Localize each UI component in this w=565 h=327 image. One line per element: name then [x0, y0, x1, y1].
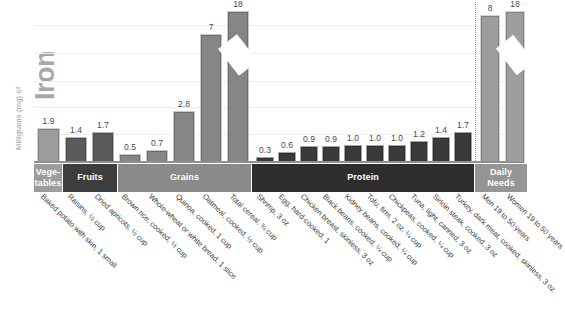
bar-value-label-4: 0.7: [140, 138, 174, 148]
bar-inner-0: [38, 129, 59, 163]
bar-inner-7: [228, 12, 248, 163]
band-label-line: Protein: [347, 173, 379, 182]
x-axis-tick-labels: Baked potato with skin, 1 smallRaisins, …: [0, 192, 507, 327]
band-label-line: tables: [35, 178, 62, 188]
gridline-1: [34, 107, 507, 108]
bar-17: [454, 132, 472, 163]
bar-inner-15: [411, 142, 427, 163]
bar-0: [37, 128, 60, 163]
bar-inner-18: [481, 16, 499, 163]
band-label-line: Fruits: [77, 173, 103, 182]
bar-inner-19: [506, 12, 524, 163]
bar-value-label-6: 7: [194, 22, 228, 32]
y-axis-title-units: Milligrams (mg) of: [14, 87, 23, 150]
band-label-line: Needs: [487, 178, 515, 188]
bar-inner-5: [174, 112, 194, 163]
bar-inner-6: [201, 35, 221, 163]
bar-inner-2: [93, 133, 113, 163]
bar-1: [65, 137, 87, 163]
bar-value-label-2: 1.7: [86, 120, 120, 130]
bar-18: [480, 15, 500, 163]
y-axis-title: Milligrams (mg) of Iron: [0, 0, 34, 170]
bar-value-label-17: 1.7: [448, 120, 478, 130]
food-group-bands: Vege-tablesFruitsGrainsProteinDailyNeeds: [34, 164, 507, 192]
plot-area: 1.91.41.70.50.72.87180.30.60.90.91.01.01…: [34, 2, 507, 163]
bar-15: [410, 141, 428, 163]
gridline-3: [34, 53, 507, 54]
band-label-line: Daily: [490, 167, 512, 177]
bar-7: [227, 11, 249, 163]
daily-needs-divider: [475, 2, 476, 163]
bar-value-label-5: 2.8: [167, 99, 201, 109]
food-group-band-veg: Vege-tables: [34, 164, 62, 192]
band-label-line: Vege-: [36, 167, 61, 177]
bar-value-label-7: 18: [221, 0, 255, 9]
bar-value-label-19: 18: [499, 0, 531, 9]
bar-19: [505, 11, 525, 163]
food-group-band-fruit: Fruits: [63, 164, 117, 192]
gridline-4: [34, 25, 507, 26]
bar-inner-17: [455, 133, 471, 163]
food-group-band-prot: Protein: [252, 164, 474, 192]
bar-16: [432, 137, 450, 163]
bar-6: [200, 34, 222, 163]
x-axis-baseline: [34, 161, 507, 163]
bar-inner-1: [66, 138, 86, 163]
bar-inner-16: [433, 138, 449, 163]
band-label-line: Grains: [170, 173, 199, 182]
bar-2: [92, 132, 114, 163]
food-group-band-grain: Grains: [118, 164, 251, 192]
food-group-band-daily: DailyNeeds: [475, 164, 527, 192]
bar-5: [173, 111, 195, 163]
gridline-2: [34, 81, 507, 82]
x-tick-label-7: Total cereal, ¾ cup: [228, 192, 279, 242]
